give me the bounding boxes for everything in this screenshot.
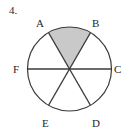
vertex-label-d: D [92,117,100,129]
vertex-label-a: A [36,17,44,29]
shaded-sector-AB [49,27,91,69]
vertex-label-b: B [92,17,99,29]
vertex-label-f: F [13,63,19,75]
geometry-figure: 4. A B C D E F [0,0,139,136]
vertex-label-c: C [114,63,121,75]
vertex-label-e: E [42,117,49,129]
